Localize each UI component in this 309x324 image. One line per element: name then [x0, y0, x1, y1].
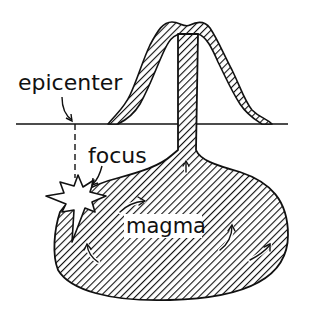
epicenter-label: epicenter — [18, 70, 123, 95]
volcano-diagram: epicenter focus magma — [0, 0, 309, 324]
epicenter-pointer-arrow — [62, 97, 72, 121]
focus-label: focus — [88, 143, 147, 168]
magma-label: magma — [126, 214, 206, 238]
